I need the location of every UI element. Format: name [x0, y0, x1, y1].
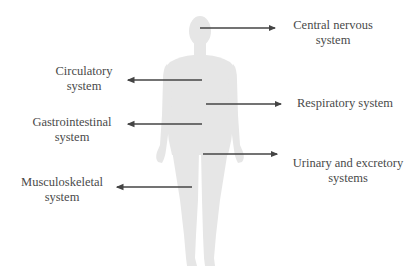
gastrointestinal-label-line1: Gastrointestinal — [22, 115, 122, 130]
respiratory-label-line1: Respiratory system — [290, 96, 400, 111]
body-systems-diagram: Central nervous system Circulatory syste… — [0, 0, 417, 274]
cns-label-line1: Central nervous — [283, 18, 383, 33]
musculoskeletal-label-line2: system — [12, 190, 112, 205]
urinary-label: Urinary and excretory systems — [285, 156, 411, 186]
musculoskeletal-label: Musculoskeletal system — [12, 175, 112, 205]
urinary-label-line2: systems — [285, 171, 411, 186]
circulatory-label: Circulatory system — [44, 64, 124, 94]
urinary-label-line1: Urinary and excretory — [285, 156, 411, 171]
circulatory-label-line1: Circulatory — [44, 64, 124, 79]
cns-label: Central nervous system — [283, 18, 383, 48]
musculoskeletal-label-line1: Musculoskeletal — [12, 175, 112, 190]
gastrointestinal-label-line2: system — [22, 130, 122, 145]
respiratory-label: Respiratory system — [290, 96, 400, 111]
circulatory-label-line2: system — [44, 79, 124, 94]
cns-label-line2: system — [283, 33, 383, 48]
gastrointestinal-label: Gastrointestinal system — [22, 115, 122, 145]
silhouette — [156, 16, 244, 266]
